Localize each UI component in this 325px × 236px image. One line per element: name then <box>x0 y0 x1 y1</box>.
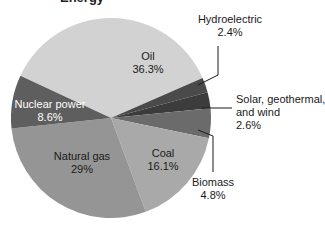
label-coal-name: Coal <box>138 147 188 160</box>
label-nuclear-power: Nuclear power 8.6% <box>10 98 90 124</box>
label-coal: Coal 16.1% <box>138 147 188 173</box>
label-hydroelectric: Hydroelectric 2.4% <box>192 13 268 39</box>
label-biomass-name: Biomass <box>185 176 241 189</box>
label-natural-gas-pct: 29% <box>42 163 122 176</box>
label-natural-gas: Natural gas 29% <box>42 150 122 176</box>
label-hydroelectric-pct: 2.4% <box>192 26 268 39</box>
label-hydroelectric-name: Hydroelectric <box>192 13 268 26</box>
label-biomass: Biomass 4.8% <box>185 176 241 202</box>
label-oil-name: Oil <box>118 50 178 63</box>
label-biomass-pct: 4.8% <box>185 189 241 202</box>
label-solar-pct: 2.6% <box>236 119 325 132</box>
label-oil-pct: 36.3% <box>118 63 178 76</box>
label-nuclear-power-name: Nuclear power <box>10 98 90 111</box>
label-solar-line2: and wind <box>236 106 325 119</box>
label-solar: Solar, geothermal, and wind 2.6% <box>236 93 325 132</box>
label-natural-gas-name: Natural gas <box>42 150 122 163</box>
label-oil: Oil 36.3% <box>118 50 178 76</box>
label-solar-line1: Solar, geothermal, <box>236 93 325 106</box>
label-nuclear-power-pct: 8.6% <box>10 111 90 124</box>
label-coal-pct: 16.1% <box>138 160 188 173</box>
